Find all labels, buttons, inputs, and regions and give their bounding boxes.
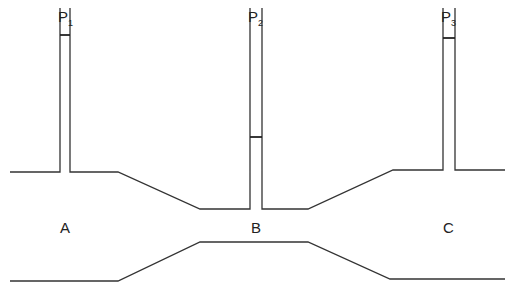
upper-wall-mid-right	[262, 8, 443, 209]
upper-wall-mid-left	[70, 8, 250, 209]
venturi-diagram: P1 P2 P3 A B C	[0, 0, 508, 290]
section-c-label: C	[443, 219, 454, 236]
lower-wall	[10, 242, 505, 281]
upper-wall-right	[455, 8, 505, 170]
section-a-label: A	[60, 219, 70, 236]
upper-wall	[10, 8, 60, 172]
section-b-label: B	[251, 219, 261, 236]
